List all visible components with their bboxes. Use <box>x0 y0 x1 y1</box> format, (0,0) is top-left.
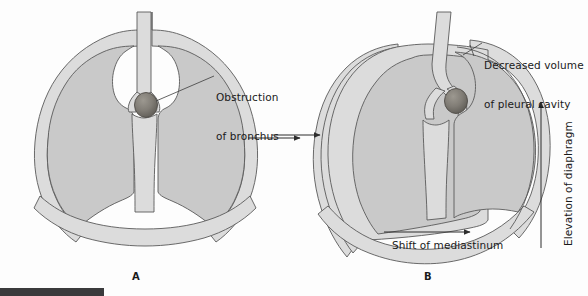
label-decreased-volume-line-1: Decreased volume <box>484 59 584 72</box>
panel-a-obstruction-ball <box>135 93 158 118</box>
label-obstruction-of-bronchus: Obstruction of bronchus <box>216 65 279 169</box>
panel-letter-a: A <box>132 271 140 282</box>
label-elevation-of-diaphragm: Elevation of diaphragm <box>562 121 575 246</box>
label-shift-of-mediastinum: Shift of mediastinum <box>392 239 503 252</box>
label-obstruction-line-1: Obstruction <box>216 91 279 104</box>
panel-a-mediastinum <box>132 114 157 212</box>
caption-bar <box>0 288 104 296</box>
panel-a-trachea <box>137 12 151 96</box>
label-decreased-volume-line-2: of pleural cavity <box>484 98 584 111</box>
panel-b-obstruction-ball <box>445 89 468 114</box>
figure-canvas: Obstruction of bronchus Decreased volume… <box>0 0 588 296</box>
label-obstruction-line-2: of bronchus <box>216 130 279 143</box>
panel-b-mediastinum <box>423 120 449 220</box>
panel-letter-b: B <box>424 271 432 282</box>
